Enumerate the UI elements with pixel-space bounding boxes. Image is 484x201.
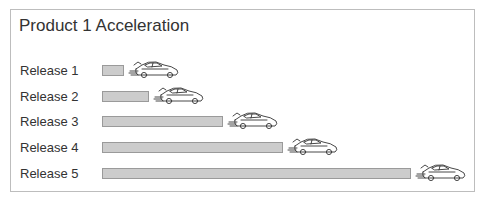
car-icon — [287, 136, 339, 156]
car-icon — [128, 59, 180, 79]
bar-row: Release 4 — [0, 138, 484, 158]
car-icon — [415, 162, 467, 182]
category-label: Release 1 — [20, 63, 79, 78]
bar-row: Release 1 — [0, 61, 484, 81]
bar-row: Release 5 — [0, 164, 484, 184]
bar — [102, 116, 223, 127]
bar-row: Release 3 — [0, 112, 484, 132]
bar — [102, 142, 283, 153]
bar — [102, 168, 411, 179]
bar-row: Release 2 — [0, 87, 484, 107]
car-icon — [153, 85, 205, 105]
chart-title: Product 1 Acceleration — [19, 16, 189, 36]
car-icon — [227, 110, 279, 130]
category-label: Release 3 — [20, 114, 79, 129]
category-label: Release 5 — [20, 166, 79, 181]
category-label: Release 4 — [20, 140, 79, 155]
bar — [102, 91, 149, 102]
category-label: Release 2 — [20, 89, 79, 104]
bar — [102, 65, 124, 76]
